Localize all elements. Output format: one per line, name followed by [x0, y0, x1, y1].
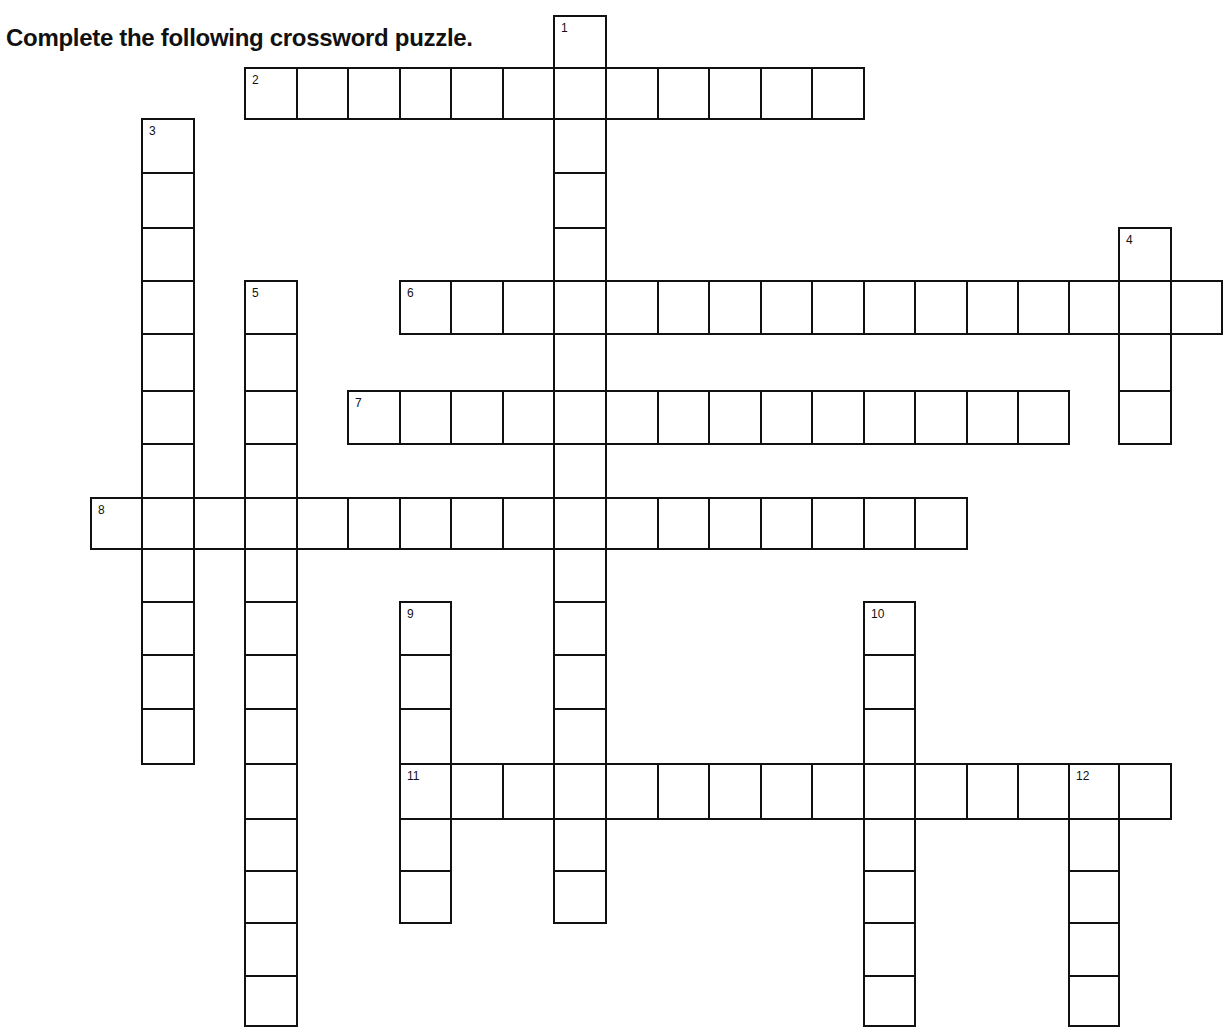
crossword-cell[interactable]	[450, 67, 504, 120]
crossword-cell[interactable]	[1017, 390, 1070, 445]
crossword-cell[interactable]	[708, 763, 762, 820]
crossword-cell[interactable]	[1118, 333, 1172, 392]
crossword-cell[interactable]	[244, 601, 298, 656]
crossword-cell[interactable]	[708, 67, 762, 120]
crossword-cell[interactable]	[1118, 280, 1172, 335]
crossword-cell[interactable]	[966, 390, 1019, 445]
crossword-cell[interactable]	[1068, 280, 1120, 335]
crossword-cell[interactable]	[244, 870, 298, 924]
crossword-cell[interactable]	[811, 67, 865, 120]
crossword-cell[interactable]	[553, 172, 607, 229]
crossword-cell[interactable]	[914, 280, 968, 335]
crossword-cell[interactable]	[553, 333, 607, 392]
crossword-cell[interactable]	[502, 280, 555, 335]
crossword-cell[interactable]: 4	[1118, 227, 1172, 282]
crossword-cell[interactable]	[1118, 390, 1172, 445]
crossword-cell[interactable]	[296, 497, 349, 550]
crossword-cell[interactable]	[502, 67, 555, 120]
crossword-cell[interactable]	[1068, 922, 1120, 977]
crossword-cell[interactable]: 6	[399, 280, 452, 335]
crossword-cell[interactable]	[553, 443, 607, 499]
crossword-cell[interactable]	[244, 497, 298, 550]
crossword-cell[interactable]	[914, 390, 968, 445]
crossword-cell[interactable]	[708, 497, 762, 550]
crossword-cell[interactable]	[553, 227, 607, 282]
crossword-cell[interactable]	[347, 497, 401, 550]
crossword-cell[interactable]	[708, 390, 762, 445]
crossword-cell[interactable]	[502, 763, 555, 820]
crossword-cell[interactable]	[605, 67, 659, 120]
crossword-cell[interactable]	[760, 280, 813, 335]
crossword-cell[interactable]	[244, 333, 298, 392]
crossword-cell[interactable]	[605, 497, 659, 550]
crossword-cell[interactable]	[553, 118, 607, 174]
crossword-cell[interactable]: 8	[90, 497, 143, 550]
crossword-cell[interactable]	[914, 763, 968, 820]
crossword-cell[interactable]	[553, 548, 607, 603]
crossword-cell[interactable]	[244, 922, 298, 977]
crossword-cell[interactable]	[244, 975, 298, 1027]
crossword-cell[interactable]	[244, 443, 298, 499]
crossword-cell[interactable]: 9	[399, 601, 452, 656]
crossword-cell[interactable]	[141, 548, 195, 603]
crossword-cell[interactable]	[502, 390, 555, 445]
crossword-cell[interactable]	[811, 390, 865, 445]
crossword-cell[interactable]	[141, 497, 195, 550]
crossword-cell[interactable]	[811, 763, 865, 820]
crossword-cell[interactable]: 10	[863, 601, 916, 656]
crossword-cell[interactable]	[760, 390, 813, 445]
crossword-cell[interactable]	[863, 654, 916, 710]
crossword-cell[interactable]: 3	[141, 118, 195, 174]
crossword-cell[interactable]	[141, 390, 195, 445]
crossword-cell[interactable]	[863, 708, 916, 765]
crossword-cell[interactable]	[760, 67, 813, 120]
crossword-cell[interactable]	[347, 67, 401, 120]
crossword-cell[interactable]	[244, 390, 298, 445]
crossword-cell[interactable]	[553, 763, 607, 820]
crossword-cell[interactable]	[553, 654, 607, 710]
crossword-cell[interactable]	[244, 708, 298, 765]
crossword-cell[interactable]	[1068, 975, 1120, 1027]
crossword-cell[interactable]	[553, 601, 607, 656]
crossword-cell[interactable]	[141, 601, 195, 656]
crossword-cell[interactable]	[450, 763, 504, 820]
crossword-cell[interactable]	[657, 763, 710, 820]
crossword-cell[interactable]	[1068, 818, 1120, 872]
crossword-cell[interactable]	[605, 763, 659, 820]
crossword-cell[interactable]	[863, 818, 916, 872]
crossword-cell[interactable]	[605, 390, 659, 445]
crossword-cell[interactable]	[605, 280, 659, 335]
crossword-cell[interactable]	[914, 497, 968, 550]
crossword-cell[interactable]	[399, 67, 452, 120]
crossword-cell[interactable]	[863, 870, 916, 924]
crossword-cell[interactable]	[863, 922, 916, 977]
crossword-cell[interactable]	[141, 280, 195, 335]
crossword-cell[interactable]	[811, 497, 865, 550]
crossword-cell[interactable]	[399, 654, 452, 710]
crossword-cell[interactable]	[141, 172, 195, 229]
crossword-cell[interactable]	[1118, 763, 1172, 820]
crossword-cell[interactable]	[811, 280, 865, 335]
crossword-cell[interactable]	[399, 390, 452, 445]
crossword-cell[interactable]	[141, 443, 195, 499]
crossword-cell[interactable]	[966, 280, 1019, 335]
crossword-cell[interactable]: 5	[244, 280, 298, 335]
crossword-cell[interactable]	[657, 390, 710, 445]
crossword-cell[interactable]	[450, 497, 504, 550]
crossword-cell[interactable]	[1017, 280, 1070, 335]
crossword-cell[interactable]	[141, 708, 195, 765]
crossword-cell[interactable]: 2	[244, 67, 298, 120]
crossword-cell[interactable]	[502, 497, 555, 550]
crossword-cell[interactable]	[1068, 870, 1120, 924]
crossword-cell[interactable]	[399, 870, 452, 924]
crossword-cell[interactable]	[553, 708, 607, 765]
crossword-cell[interactable]	[708, 280, 762, 335]
crossword-cell[interactable]	[244, 818, 298, 872]
crossword-cell[interactable]	[193, 497, 246, 550]
crossword-cell[interactable]	[863, 390, 916, 445]
crossword-cell[interactable]	[141, 654, 195, 710]
crossword-cell[interactable]	[863, 497, 916, 550]
crossword-cell[interactable]	[450, 280, 504, 335]
crossword-cell[interactable]	[553, 280, 607, 335]
crossword-cell[interactable]	[399, 818, 452, 872]
